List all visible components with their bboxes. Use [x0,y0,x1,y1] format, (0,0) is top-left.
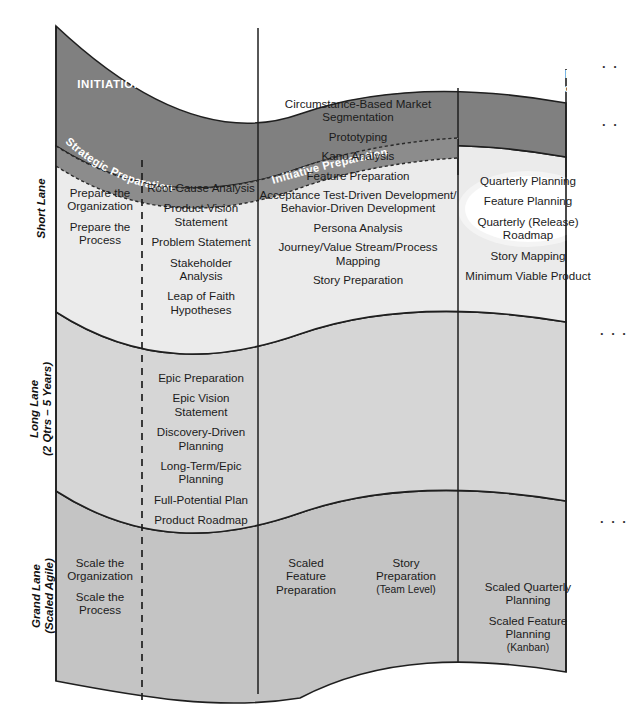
activity-item: Circumstance-Based MarketSegmentation [256,97,460,124]
phase-title-quarterly-main: QUARTERLY INCEPTION [461,68,601,80]
activity-item: Product VisionStatement [144,201,258,228]
lane-label-short-lane-text: Short Lane [35,178,47,238]
activity-item: Problem Statement [144,235,258,248]
activity-item: Prepare theProcess [58,220,142,247]
activity-item: Product Roadmap [144,513,258,526]
activity-item: Scaled FeaturePlanning(Kanban) [460,614,596,654]
activity-item: Prototyping [256,130,460,143]
activity-item: Root-Cause Analysis [144,181,258,194]
activity-item: Leap of FaithHypotheses [144,289,258,316]
activity-item: Quarterly Planning [460,174,596,187]
cell-grand-seeding-feature-preparation: ScaledFeaturePreparation [258,556,354,596]
activity-item: Discovery-DrivenPlanning [144,425,258,452]
ellipsis-middle: · · · [600,331,628,337]
activity-item: Epic Preparation [144,371,258,384]
activity-item-sub: (Kanban) [460,641,596,654]
activity-item: Full-Potential Plan [144,493,258,506]
phase-title-initiation-and-planning: INITIATION AND PLANNING [66,78,252,92]
phase-title-quarterly-sub: Feature Inception [461,82,601,96]
ellipsis-lower: · · · [600,519,628,525]
lane-label-long-lane-subtext: (2 Qtrs – 5 Years) [41,362,53,456]
activity-item: StakeholderAnalysis [144,256,258,283]
phase-title-quarterly-inception: QUARTERLY INCEPTION Feature Inception [461,68,601,95]
activity-item: Long-Term/EpicPlanning [144,459,258,486]
activity-item: Kano Analysis [256,149,460,162]
lane-label-long-lane-text: Long Lane [28,380,40,438]
cell-short-strategic-preparation: Prepare theOrganizationPrepare theProces… [58,186,142,247]
activity-item-sub: (Team Level) [356,583,456,596]
activity-item: StoryPreparation(Team Level) [356,556,456,596]
lane-label-long-lane: Long Lane (2 Qtrs – 5 Years) [28,350,54,468]
activity-item: Epic VisionStatement [144,391,258,418]
cell-short-quarterly-inception: Quarterly PlanningFeature PlanningQuarte… [460,174,596,282]
activity-item: Quarterly (Release)Roadmap [460,215,596,242]
activity-item: Story Mapping [460,249,596,262]
activity-item: Persona Analysis [256,221,460,234]
cell-long-initiative-preparation: Epic PreparationEpic VisionStatementDisc… [144,371,258,527]
activity-item: Feature Preparation [256,169,460,182]
activity-item: Story Preparation [256,273,460,286]
cell-short-seeding-the-backlog: Circumstance-Based MarketSegmentationPro… [256,97,460,292]
activity-item: Prepare theOrganization [58,186,142,213]
activity-item: Journey/Value Stream/ProcessMapping [256,240,460,267]
lane-label-grand-lane-subtext: (Scaled Agile) [43,558,55,634]
ellipsis-top: · · [602,64,619,70]
phase-title-seeding-the-backlog: SEEDING THE BACKLOG [266,27,452,41]
lane-label-grand-lane-text: Grand Lane [30,564,42,628]
cell-grand-seeding-story-preparation: StoryPreparation(Team Level) [356,556,456,596]
activity-item: Scale theProcess [58,590,142,617]
cell-grand-strategic-preparation: Scale theOrganizationScale theProcess [58,556,142,617]
activity-item: Acceptance Test-Driven Development/Behav… [256,188,460,215]
activity-item: ScaledFeaturePreparation [258,556,354,596]
swimlane-diagram: Strategic Preparation Initiative Prepara… [0,0,628,717]
activity-item: Scale theOrganization [58,556,142,583]
activity-item: Minimum Viable Product [460,269,596,282]
cell-grand-quarterly-inception: Scaled QuarterlyPlanningScaled FeaturePl… [460,580,596,654]
lane-label-grand-lane: Grand Lane (Scaled Agile) [30,537,56,655]
activity-item: Scaled QuarterlyPlanning [460,580,596,607]
ellipsis-upper: · · [602,122,619,128]
lane-label-short-lane: Short Lane [35,164,48,254]
activity-item: Feature Planning [460,194,596,207]
cell-short-initiative-preparation: Root-Cause AnalysisProduct VisionStateme… [144,181,258,316]
